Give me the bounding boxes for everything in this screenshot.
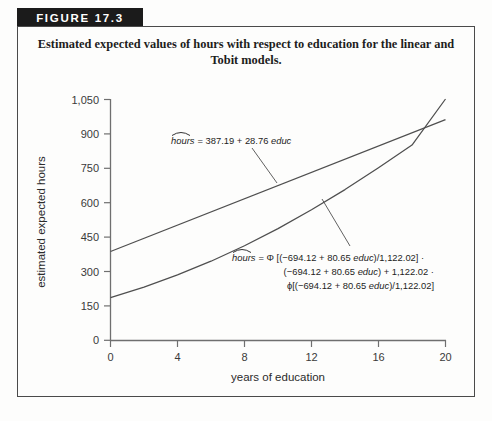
figure-caption: Estimated expected values of hours with … — [24, 36, 468, 68]
figure-root: FIGURE 17.3 Estimated expected values of… — [0, 0, 492, 421]
figure-frame — [17, 26, 475, 397]
figure-number-banner: FIGURE 17.3 — [17, 8, 143, 27]
